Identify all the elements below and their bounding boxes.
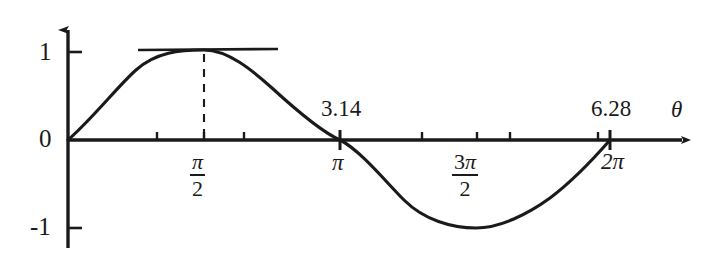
three-pi-coefficient: 3 <box>454 149 465 174</box>
x-tick-label-pi-over-2: π 2 <box>190 150 205 202</box>
plot-canvas <box>0 0 720 263</box>
pi-over-2-numerator: π <box>190 150 205 173</box>
y-axis-label-one: 1 <box>39 39 52 64</box>
x-axis-label-theta: θ <box>671 98 682 121</box>
sine-curve-figure: 1 0 -1 π 2 3.14 π 3π 2 6.28 2π θ <box>0 0 720 263</box>
x-axis-value-6-28: 6.28 <box>591 97 631 120</box>
pi-over-2-denominator: 2 <box>190 177 205 202</box>
three-pi-over-2-numerator: 3π <box>452 150 478 173</box>
y-axis-label-zero: 0 <box>39 126 52 151</box>
y-axis-label-minus-one: -1 <box>30 214 51 239</box>
x-tick-label-two-pi: 2π <box>601 150 624 173</box>
x-axis-value-3-14: 3.14 <box>321 97 361 120</box>
x-tick-label-three-pi-over-2: 3π 2 <box>452 150 478 202</box>
x-tick-label-pi: π <box>332 151 344 174</box>
three-pi-over-2-denominator: 2 <box>452 177 478 202</box>
three-pi-symbol: π <box>465 149 476 174</box>
